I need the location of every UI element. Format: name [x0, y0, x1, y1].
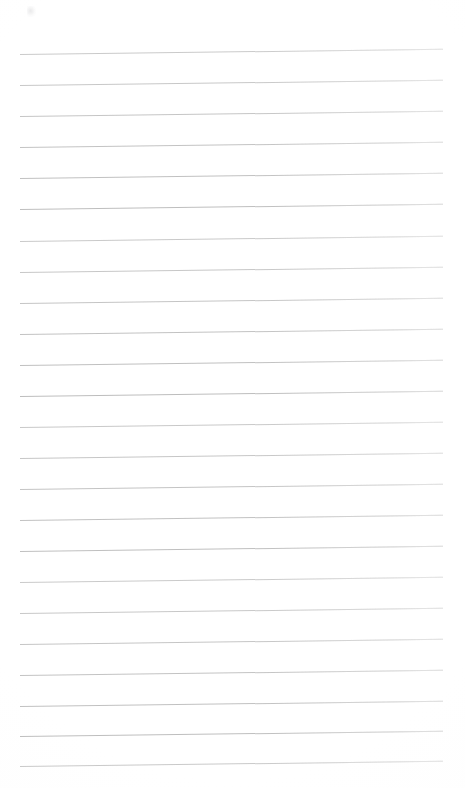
- scan-speck-artifact: [27, 6, 36, 17]
- ruled-line: [20, 701, 443, 707]
- ruled-line: [20, 515, 443, 521]
- ruled-line: [20, 204, 443, 210]
- ruled-line: [20, 670, 443, 676]
- ruled-line: [20, 49, 443, 55]
- ruled-line: [20, 731, 443, 737]
- ruled-line: [20, 360, 443, 366]
- ruled-line: [20, 298, 443, 304]
- ruled-lines-group: [0, 0, 465, 788]
- ruled-line: [20, 391, 443, 397]
- ruled-line: [20, 608, 443, 614]
- ruled-line: [20, 453, 443, 459]
- ruled-line: [20, 329, 443, 335]
- ruled-line: [20, 267, 443, 273]
- ruled-line: [20, 577, 443, 583]
- ruled-line: [20, 639, 443, 645]
- ruled-line: [20, 111, 443, 117]
- ruled-line: [20, 142, 443, 148]
- ruled-line: [20, 80, 443, 86]
- ruled-line: [20, 236, 443, 242]
- ruled-line: [20, 761, 443, 767]
- ruled-line: [20, 546, 443, 552]
- ruled-line: [20, 173, 443, 179]
- notebook-page: [0, 0, 465, 788]
- ruled-line: [20, 422, 443, 428]
- ruled-line: [20, 484, 443, 490]
